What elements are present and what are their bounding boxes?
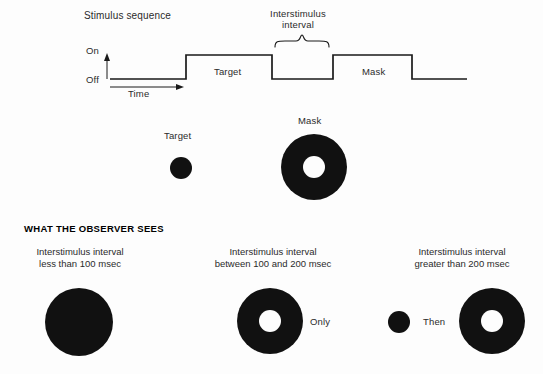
- isi-brace-label-line2: interval: [258, 19, 338, 31]
- percept-annulus: [459, 288, 525, 354]
- mask-annulus-hole: [303, 156, 325, 178]
- condition-caption-line1: Interstimulus interval: [203, 246, 343, 259]
- percept-large-disk: [45, 288, 113, 356]
- pulse-label-target: Target: [214, 66, 241, 78]
- condition-caption-line1: Interstimulus interval: [10, 246, 150, 259]
- stimulus-sequence-title: Stimulus sequence: [84, 10, 171, 22]
- on-off-axis-arrow: [104, 53, 110, 79]
- stimulus-label-mask: Mask: [298, 115, 321, 127]
- pulse-label-mask: Mask: [362, 66, 385, 78]
- condition-caption-line2: between 100 and 200 msec: [203, 258, 343, 271]
- target-disk: [170, 157, 192, 179]
- isi-brace-label-line1: Interstimulus: [258, 8, 338, 20]
- condition-caption-line1: Interstimulus interval: [392, 246, 532, 259]
- observer-section-heading: WHAT THE OBSERVER SEES: [24, 223, 164, 234]
- axis-label-on: On: [86, 45, 99, 57]
- waveform-trace: [110, 55, 467, 79]
- isi-brace: [275, 35, 329, 47]
- percept-annulus-hole: [481, 310, 503, 332]
- axis-label-off: Off: [86, 74, 99, 86]
- condition-caption-line2: greater than 200 msec: [392, 258, 532, 271]
- percept-connector-then: Then: [423, 316, 445, 328]
- figure-root: Stimulus sequence On Off Time Interstimu…: [0, 0, 543, 374]
- stimulus-label-target: Target: [164, 130, 191, 142]
- percept-annulus: [237, 288, 303, 354]
- percept-small-disk: [388, 311, 410, 333]
- condition-caption-line2: less than 100 msec: [10, 258, 150, 271]
- axis-label-time: Time: [128, 88, 149, 100]
- percept-annulus-hole: [259, 310, 281, 332]
- percept-connector-only: Only: [310, 316, 330, 328]
- mask-annulus: [281, 134, 347, 200]
